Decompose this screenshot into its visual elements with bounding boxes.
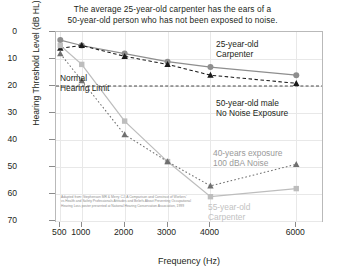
data-point-marker xyxy=(122,118,127,123)
chart-title: The average 25-year-old carpenter has th… xyxy=(0,4,345,25)
normal-limit-line-2: Hearing Limit xyxy=(60,83,109,93)
data-point-marker xyxy=(293,161,299,167)
annotation-exposure-40: 40-years exposure 100 dBA Noise xyxy=(213,148,282,169)
y-tick-label: 10 xyxy=(0,53,17,63)
chart-title-line-2: 50-year-old person who has not been expo… xyxy=(0,15,345,26)
y-tick-label: 30 xyxy=(0,107,17,117)
credit-text: Adapted from: Stephenson MR & Merry CJ. … xyxy=(61,195,211,208)
gridline-horizontal xyxy=(56,221,322,222)
x-tick-mark xyxy=(124,222,125,227)
data-point-marker xyxy=(293,72,299,78)
data-point-marker xyxy=(207,64,213,70)
y-axis-label: Hearing Threshold Level (dB HL) xyxy=(31,0,41,138)
annotation-carpenter-25: 25-year-old Carpenter xyxy=(216,39,258,60)
y-tick-label: 20 xyxy=(0,80,17,90)
y-tick-label: 0 xyxy=(0,26,17,36)
annotation-male-50: 50-year-old male No Noise Exposure xyxy=(216,98,288,119)
audiogram-chart: The average 25-year-old carpenter has th… xyxy=(0,0,345,276)
y-tick-label: 50 xyxy=(0,161,17,171)
credit-line-2: vs Health and Safety Professionals Attit… xyxy=(61,199,211,203)
annotation-carpenter-55: 55-year-old Carpenter xyxy=(208,202,250,223)
series-line xyxy=(60,46,296,197)
annotation-male-50-line-2: No Noise Exposure xyxy=(216,108,288,118)
plot-area: 25-year-old Carpenter 50-year-old male N… xyxy=(55,31,323,222)
annotation-exposure-40-line-1: 40-years exposure xyxy=(213,148,282,158)
x-tick-label: 4000 xyxy=(184,227,234,237)
y-tick-label: 70 xyxy=(0,215,17,225)
annotation-exposure-40-line-2: 100 dBA Noise xyxy=(213,158,282,168)
data-point-marker xyxy=(57,50,63,56)
x-tick-label: 6000 xyxy=(270,227,320,237)
data-point-marker xyxy=(79,62,84,67)
annotation-carpenter-55-line-1: 55-year-old xyxy=(208,202,250,212)
chart-title-line-1: The average 25-year-old carpenter has th… xyxy=(0,4,345,15)
x-tick-mark xyxy=(81,222,82,227)
series-line xyxy=(60,40,296,75)
data-point-marker xyxy=(58,43,63,48)
y-tick-label: 60 xyxy=(0,188,17,198)
annotation-normal-hearing-limit: Normal Hearing Limit xyxy=(60,73,109,94)
data-point-marker xyxy=(294,186,299,191)
annotation-carpenter-25-line-1: 25-year-old xyxy=(216,39,258,49)
data-point-marker xyxy=(293,80,299,86)
data-point-marker xyxy=(57,37,63,43)
y-tick-label: 40 xyxy=(0,134,17,144)
x-tick-mark xyxy=(295,222,296,227)
credit-line-3: Hearing Loss poster presented at Nationa… xyxy=(61,204,211,208)
annotation-carpenter-25-line-2: Carpenter xyxy=(216,49,258,59)
x-axis-label: Frequency (Hz) xyxy=(55,256,323,266)
series-layer xyxy=(56,32,322,221)
normal-limit-line-1: Normal xyxy=(60,73,109,83)
x-tick-mark xyxy=(167,222,168,227)
annotation-male-50-line-1: 50-year-old male xyxy=(216,98,288,108)
series-55-year-old-carpenter xyxy=(58,43,299,200)
annotation-carpenter-55-line-2: Carpenter xyxy=(208,212,250,222)
